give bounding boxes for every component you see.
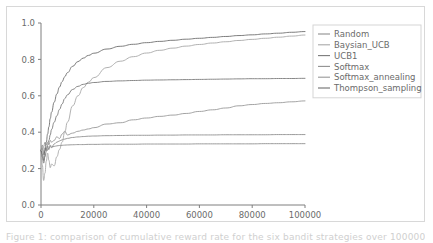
y-axis-tick-label: 0.6 — [21, 91, 35, 101]
figure-frame: 0.00.20.40.60.81.00200004000060000800001… — [6, 6, 425, 222]
y-axis-tick-label: 0.2 — [21, 164, 35, 174]
legend-label-baysian_ucb: Baysian_UCB — [334, 40, 390, 50]
legend-label-softmax_annealing: Softmax_annealing — [334, 72, 415, 82]
x-axis-tick-label: 0 — [38, 210, 43, 220]
x-axis-tick-label: 20000 — [80, 210, 107, 220]
x-axis-tick-label: 60000 — [186, 210, 213, 220]
y-axis-tick-label: 0.8 — [21, 55, 35, 65]
y-axis-tick-label: 1.0 — [21, 18, 35, 28]
series-line-thompson_sampling — [41, 32, 305, 161]
legend-label-ucb1: UCB1 — [334, 51, 357, 61]
y-axis-tick-label: 0.0 — [21, 200, 35, 210]
screenshot-root: 0.00.20.40.60.81.00200004000060000800001… — [0, 0, 433, 243]
legend-label-softmax: Softmax — [334, 62, 369, 72]
series-line-softmax_annealing — [41, 101, 305, 150]
series-line-baysian_ucb — [41, 35, 305, 180]
y-axis-tick-label: 0.4 — [21, 127, 35, 137]
line-chart: 0.00.20.40.60.81.00200004000060000800001… — [7, 7, 424, 221]
x-axis-tick-label: 40000 — [133, 210, 160, 220]
legend-label-random: Random — [334, 29, 369, 39]
x-axis-tick-label: 100000 — [289, 210, 321, 220]
series-line-softmax — [41, 144, 305, 155]
x-axis-tick-label: 80000 — [239, 210, 266, 220]
legend-label-thompson_sampling: Thompson_sampling — [333, 83, 422, 93]
figure-caption: Figure 1: comparison of cumulative rewar… — [6, 231, 425, 243]
